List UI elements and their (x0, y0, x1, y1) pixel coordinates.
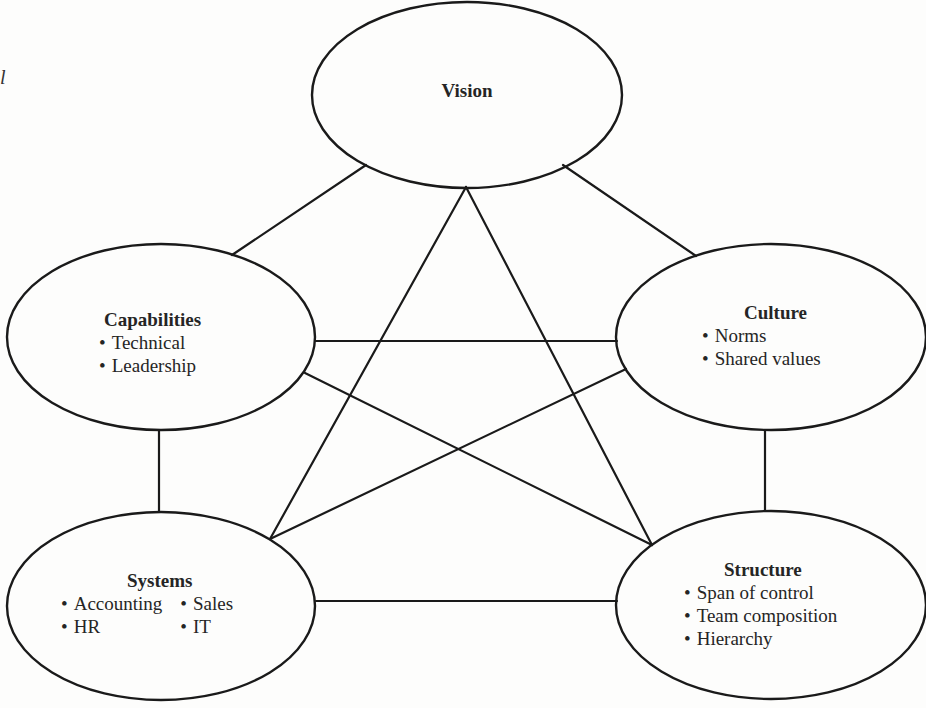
node-systems: Systems Accounting HR Sales IT (61, 569, 233, 638)
bullet-item: HR (61, 615, 162, 638)
node-title: Capabilities (99, 308, 201, 331)
node-title: Systems (61, 569, 233, 592)
node-culture: Culture Norms Shared values (702, 301, 821, 370)
node-vision: Vision (407, 79, 527, 102)
edge-vision-capabilities (232, 165, 366, 255)
node-capabilities: Capabilities Technical Leadership (99, 308, 201, 377)
node-title: Structure (684, 558, 837, 581)
bullet-item: IT (180, 615, 233, 638)
node-title: Vision (407, 79, 527, 102)
edge-culture-systems (270, 369, 626, 539)
bullet-item: Accounting (61, 592, 162, 615)
systems-columns: Accounting HR Sales IT (61, 592, 233, 638)
bullet-item: Sales (180, 592, 233, 615)
bullet-item: Span of control (684, 581, 837, 604)
bullet-item: Norms (702, 324, 821, 347)
bullet-item: Hierarchy (684, 627, 837, 650)
edge-vision-culture (563, 165, 696, 256)
systems-column-right: Sales IT (180, 592, 233, 638)
bullet-item: Shared values (702, 347, 821, 370)
bullet-item: Technical (99, 331, 201, 354)
bullet-item: Leadership (99, 354, 201, 377)
node-title: Culture (702, 301, 821, 324)
edge-capabilities-structure (305, 373, 652, 545)
systems-column-left: Accounting HR (61, 592, 162, 638)
node-structure: Structure Span of control Team compositi… (684, 558, 837, 650)
bullet-item: Team composition (684, 604, 837, 627)
